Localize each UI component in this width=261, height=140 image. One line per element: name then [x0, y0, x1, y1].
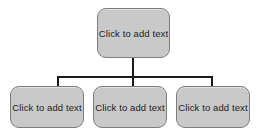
- org-node-child-3[interactable]: Click to add text: [176, 86, 250, 128]
- connector-horizontal-bus: [57, 76, 213, 78]
- org-node-parent-label[interactable]: Click to add text: [99, 28, 168, 39]
- org-node-child-2[interactable]: Click to add text: [93, 86, 167, 128]
- org-node-child-1-label[interactable]: Click to add text: [12, 102, 81, 113]
- diagram-canvas: Click to add text Click to add text Clic…: [0, 0, 261, 140]
- org-node-child-3-label[interactable]: Click to add text: [178, 102, 247, 113]
- org-node-parent[interactable]: Click to add text: [97, 8, 170, 58]
- org-node-child-2-label[interactable]: Click to add text: [95, 102, 164, 113]
- connector-trunk-vertical: [132, 58, 134, 77]
- org-node-child-1[interactable]: Click to add text: [10, 86, 84, 128]
